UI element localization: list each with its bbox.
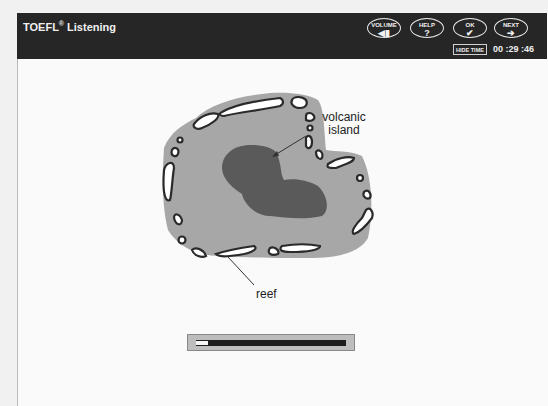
progress-track bbox=[196, 340, 346, 346]
audio-progress-bar bbox=[187, 334, 355, 351]
reef-label: reef bbox=[256, 288, 277, 301]
reef-pointer-line bbox=[228, 257, 254, 285]
progress-fill bbox=[196, 341, 208, 345]
volcanic-island-label: volcanicisland bbox=[309, 111, 379, 137]
